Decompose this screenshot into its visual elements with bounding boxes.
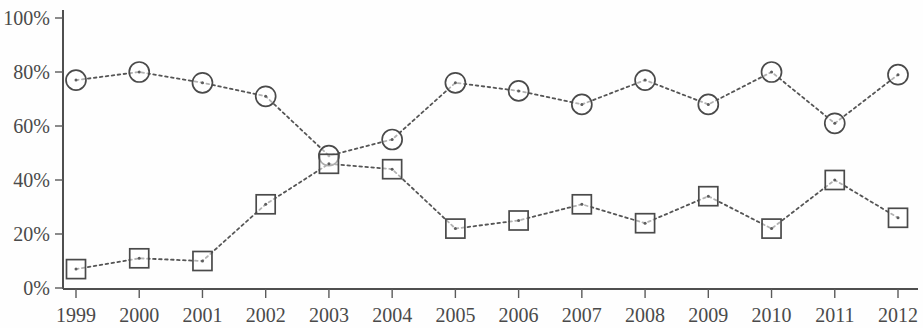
data-point-center-dot xyxy=(201,81,204,84)
x-tick-label-2004: 2004 xyxy=(372,304,412,326)
data-point-center-dot xyxy=(580,103,583,106)
line-chart: 0%20%40%60%80%100% 199920002001200220032… xyxy=(0,0,923,328)
data-point-center-dot xyxy=(391,138,394,141)
data-point-center-dot xyxy=(833,179,836,182)
data-point-center-dot xyxy=(517,89,520,92)
data-point-center-dot xyxy=(201,260,204,263)
x-tick-label-2007: 2007 xyxy=(562,304,602,326)
series-marker-group xyxy=(66,62,908,279)
x-tick-label-2011: 2011 xyxy=(815,304,854,326)
x-tick-label-2010: 2010 xyxy=(752,304,792,326)
x-tick-label-2005: 2005 xyxy=(435,304,475,326)
y-tick-label: 60% xyxy=(13,115,50,137)
data-point-center-dot xyxy=(707,195,710,198)
y-tick-label: 40% xyxy=(13,169,50,191)
x-tick-label-2003: 2003 xyxy=(309,304,349,326)
x-tick-label-2006: 2006 xyxy=(499,304,539,326)
data-point-center-dot xyxy=(138,71,141,74)
x-tick-label-2008: 2008 xyxy=(625,304,665,326)
data-point-center-dot xyxy=(707,103,710,106)
data-point-center-dot xyxy=(454,81,457,84)
data-point-center-dot xyxy=(833,122,836,125)
y-tick-label: 100% xyxy=(3,7,50,29)
data-point-center-dot xyxy=(391,168,394,171)
data-point-center-dot xyxy=(770,227,773,230)
data-point-center-dot xyxy=(264,95,267,98)
chart-container: 0%20%40%60%80%100% 199920002001200220032… xyxy=(0,0,923,328)
data-point-center-dot xyxy=(644,222,647,225)
y-tick-label-group: 0%20%40%60%80%100% xyxy=(3,7,50,299)
data-point-center-dot xyxy=(897,216,900,219)
x-tick-group xyxy=(76,289,898,298)
y-tick-label: 80% xyxy=(13,61,50,83)
y-tick-group xyxy=(55,18,63,288)
data-point-center-dot xyxy=(517,219,520,222)
series-line-group xyxy=(76,72,898,269)
x-tick-label-2001: 2001 xyxy=(182,304,222,326)
data-point-center-dot xyxy=(580,203,583,206)
x-tick-label-2002: 2002 xyxy=(246,304,286,326)
data-point-center-dot xyxy=(897,73,900,76)
x-tick-label-2000: 2000 xyxy=(119,304,159,326)
data-point-center-dot xyxy=(138,257,141,260)
data-point-center-dot xyxy=(75,79,78,82)
y-tick-label: 0% xyxy=(23,277,50,299)
x-tick-label-2012: 2012 xyxy=(878,304,918,326)
data-point-center-dot xyxy=(75,268,78,271)
x-tick-label-1999: 1999 xyxy=(56,304,96,326)
data-point-center-dot xyxy=(644,79,647,82)
x-tick-label-group: 1999200020012002200320042005200620072008… xyxy=(56,304,918,326)
data-point-center-dot xyxy=(264,203,267,206)
data-point-center-dot xyxy=(770,71,773,74)
data-point-center-dot xyxy=(454,227,457,230)
y-tick-label: 20% xyxy=(13,223,50,245)
data-point-center-dot xyxy=(327,162,330,165)
x-tick-label-2009: 2009 xyxy=(688,304,728,326)
